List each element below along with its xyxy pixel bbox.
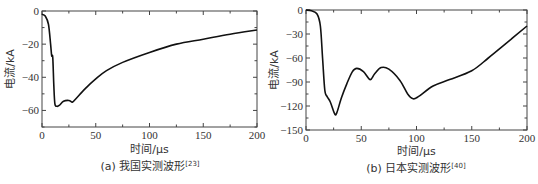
- y-tick-label: −60: [22, 104, 40, 116]
- plot-frame: [306, 10, 527, 130]
- x-tick-label: 100: [141, 129, 158, 141]
- x-tick-label: 50: [356, 132, 368, 144]
- caption-text: (a) 我国实测波形: [100, 159, 185, 173]
- y-axis-label: 电流/kA: [267, 50, 281, 90]
- plot-frame: [42, 11, 257, 127]
- x-tick-label: 200: [249, 129, 266, 141]
- x-tick-label: 0: [303, 132, 309, 144]
- x-axis-label: 时间/μs: [130, 143, 169, 156]
- y-tick-label: −120: [280, 100, 303, 112]
- y-tick-label: −20: [22, 38, 40, 50]
- figure-caption: (b) 日本实测波形[40]: [366, 161, 466, 175]
- y-tick-label: −150: [280, 124, 303, 136]
- y-tick-label: −40: [22, 71, 40, 83]
- x-tick-label: 200: [519, 132, 536, 144]
- chart-b: 0501001502000−30−60−90−120−150电流/kA时间/μs…: [267, 4, 536, 175]
- figure-caption: (a) 我国实测波形[23]: [100, 159, 199, 173]
- x-tick-label: 100: [408, 132, 425, 144]
- caption-text: (b) 日本实测波形: [366, 161, 451, 175]
- waveform-line: [306, 10, 527, 115]
- x-tick-label: 50: [90, 129, 102, 141]
- x-tick-label: 150: [195, 129, 212, 141]
- waveform-line: [42, 14, 257, 106]
- chart-canvas: 0501001502000−20−40−60电流/kA时间/μs(a) 我国实测…: [0, 0, 538, 184]
- y-axis-label: 电流/kA: [3, 49, 17, 89]
- x-tick-label: 0: [39, 129, 45, 141]
- y-tick-label: −60: [286, 52, 304, 64]
- y-tick-label: −30: [286, 28, 304, 40]
- caption-reference: [40]: [451, 162, 466, 170]
- y-tick-label: 0: [34, 5, 40, 17]
- x-axis-label: 时间/μs: [397, 145, 436, 158]
- x-tick-label: 150: [464, 132, 481, 144]
- y-tick-label: −90: [286, 76, 304, 88]
- caption-reference: [23]: [185, 160, 200, 168]
- chart-a: 0501001502000−20−40−60电流/kA时间/μs(a) 我国实测…: [3, 5, 266, 173]
- y-tick-label: 0: [298, 4, 304, 16]
